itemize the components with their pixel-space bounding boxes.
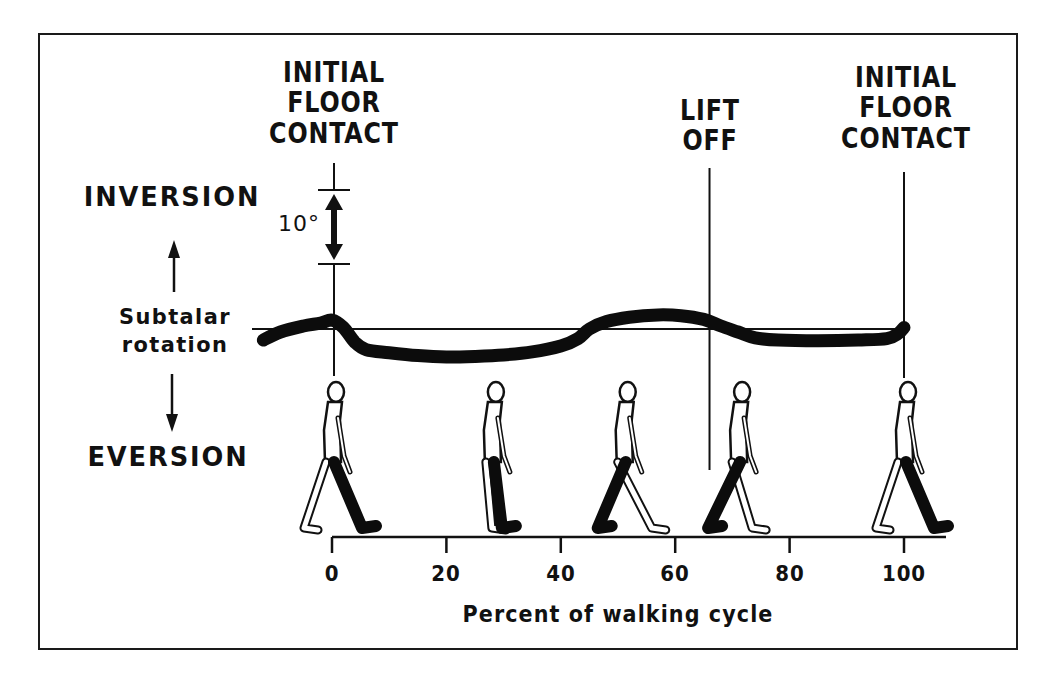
walking-figure [598, 382, 666, 530]
event-label-initial-contact-left: INITIAL FLOOR CONTACT [268, 57, 399, 148]
arrow-down-icon [325, 244, 343, 260]
x-tick-label: 60 [648, 562, 702, 585]
subtalar-rotation-label: Subtalar rotation [104, 303, 247, 358]
inversion-arrow-icon [168, 240, 180, 292]
x-axis [332, 537, 946, 553]
walking-figure [484, 382, 516, 530]
x-tick-label: 80 [763, 562, 817, 585]
walking-figure [708, 382, 766, 530]
x-axis-label: Percent of walking cycle [438, 602, 798, 626]
ten-degree-label: 10° [274, 212, 324, 235]
event-label-lift-off: LIFT OFF [661, 95, 759, 156]
x-tick-label: 20 [419, 562, 473, 585]
walking-figure [304, 382, 376, 530]
eversion-label: EVERSION [73, 443, 263, 471]
x-tick-label: 100 [877, 562, 931, 585]
inversion-label: INVERSION [77, 183, 267, 211]
walking-figure [876, 382, 948, 530]
eversion-arrow-icon [166, 374, 178, 432]
arrow-up-icon [325, 194, 343, 210]
x-tick-label: 40 [534, 562, 588, 585]
event-label-initial-contact-right: INITIAL FLOOR CONTACT [840, 62, 971, 153]
x-tick-label: 0 [305, 562, 359, 585]
subtalar-rotation-curve [263, 315, 904, 357]
walking-figures [304, 382, 948, 530]
